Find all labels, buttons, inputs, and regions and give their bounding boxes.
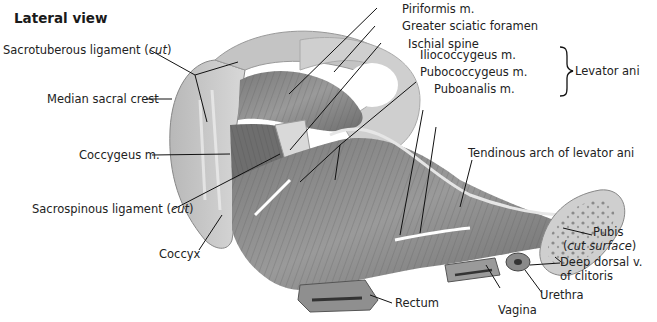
label-pubococcygeus: Pubococcygeus m.: [420, 66, 527, 79]
label-pubis-cut-surface: (cut surface): [563, 240, 636, 253]
levator-ani-brace: [560, 47, 573, 96]
label-median-sacral-crest: Median sacral crest: [47, 93, 159, 106]
label-tendinous-arch: Tendinous arch of levator ani: [468, 147, 634, 160]
label-coccygeus: Coccygeus m.: [79, 149, 160, 162]
label-sacrotuberous-ligament: Sacrotuberous ligament (cut): [3, 44, 171, 57]
label-deep-dorsal-vein-cont: of clitoris: [560, 270, 613, 283]
rectum: [298, 280, 378, 312]
label-coccyx: Coccyx: [159, 248, 200, 261]
label-rectum: Rectum: [395, 297, 439, 310]
greater-sciatic-foramen-opening: [346, 63, 398, 107]
label-pubis: Pubis: [593, 226, 624, 239]
label-puboanalis: Puboanalis m.: [434, 83, 515, 96]
label-iliococcygeus: Iliococcygeus m.: [420, 49, 516, 62]
label-urethra: Urethra: [540, 289, 584, 302]
label-piriformis: Piriformis m.: [402, 3, 474, 16]
label-vagina: Vagina: [498, 304, 537, 317]
label-deep-dorsal-vein: Deep dorsal v.: [560, 256, 642, 269]
label-greater-sciatic-foramen: Greater sciatic foramen: [402, 20, 538, 33]
view-title: Lateral view: [14, 10, 107, 26]
label-levator-ani: Levator ani: [575, 65, 640, 78]
label-sacrospinous-ligament: Sacrospinous ligament (cut): [32, 203, 194, 216]
